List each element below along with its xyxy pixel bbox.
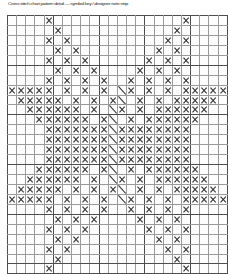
stitch-cell-empty[interactable] — [8, 95, 17, 105]
stitch-cell-empty[interactable] — [154, 224, 163, 234]
stitch-cell-empty[interactable] — [136, 45, 145, 55]
stitch-cell-empty[interactable] — [191, 45, 200, 55]
stitch-cell-cross[interactable] — [26, 95, 35, 105]
stitch-cell-cross[interactable] — [44, 135, 53, 145]
stitch-cell-cross[interactable] — [90, 135, 99, 145]
stitch-cell-cross[interactable] — [172, 155, 181, 165]
stitch-cell-empty[interactable] — [53, 244, 62, 254]
stitch-cell-empty[interactable] — [81, 184, 90, 194]
stitch-cell-cross[interactable] — [163, 204, 172, 214]
stitch-cell-cross[interactable] — [163, 194, 172, 204]
stitch-cell-empty[interactable] — [117, 214, 126, 224]
stitch-cell-empty[interactable] — [108, 244, 117, 254]
stitch-cell-cross[interactable] — [136, 214, 145, 224]
stitch-cell-empty[interactable] — [81, 95, 90, 105]
stitch-cell-empty[interactable] — [35, 244, 44, 254]
stitch-cell-empty[interactable] — [26, 125, 35, 135]
stitch-cell-empty[interactable] — [218, 145, 227, 155]
stitch-cell-empty[interactable] — [35, 55, 44, 65]
stitch-cell-empty[interactable] — [117, 55, 126, 65]
stitch-cell-cross[interactable] — [172, 165, 181, 175]
stitch-cell-cross[interactable] — [99, 115, 108, 125]
stitch-cell-backstitch[interactable] — [117, 85, 126, 95]
stitch-cell-cross[interactable] — [163, 224, 172, 234]
stitch-cell-empty[interactable] — [145, 244, 154, 254]
stitch-cell-cross[interactable] — [8, 194, 17, 204]
stitch-cell-empty[interactable] — [117, 224, 126, 234]
stitch-cell-cross[interactable] — [72, 135, 81, 145]
stitch-cell-cross[interactable] — [26, 184, 35, 194]
stitch-cell-empty[interactable] — [154, 254, 163, 264]
stitch-cell-empty[interactable] — [209, 135, 218, 145]
stitch-cell-empty[interactable] — [35, 65, 44, 75]
stitch-cell-cross[interactable] — [181, 204, 190, 214]
stitch-cell-empty[interactable] — [209, 264, 218, 274]
stitch-cell-empty[interactable] — [209, 145, 218, 155]
stitch-cell-cross[interactable] — [154, 175, 163, 185]
stitch-cell-cross[interactable] — [90, 155, 99, 165]
stitch-cell-empty[interactable] — [117, 65, 126, 75]
stitch-cell-cross[interactable] — [62, 175, 71, 185]
stitch-cell-empty[interactable] — [26, 264, 35, 274]
stitch-cell-cross[interactable] — [99, 125, 108, 135]
stitch-cell-cross[interactable] — [90, 95, 99, 105]
stitch-cell-cross[interactable] — [44, 224, 53, 234]
stitch-cell-empty[interactable] — [90, 45, 99, 55]
stitch-cell-empty[interactable] — [154, 35, 163, 45]
stitch-cell-cross[interactable] — [72, 65, 81, 75]
stitch-cell-empty[interactable] — [8, 214, 17, 224]
stitch-cell-empty[interactable] — [172, 264, 181, 274]
stitch-cell-cross[interactable] — [181, 16, 190, 26]
stitch-cell-empty[interactable] — [90, 224, 99, 234]
stitch-cell-empty[interactable] — [218, 175, 227, 185]
stitch-cell-cross[interactable] — [44, 55, 53, 65]
stitch-cell-cross[interactable] — [200, 175, 209, 185]
stitch-cell-empty[interactable] — [35, 204, 44, 214]
stitch-cell-empty[interactable] — [72, 85, 81, 95]
stitch-cell-empty[interactable] — [154, 16, 163, 26]
stitch-cell-empty[interactable] — [127, 175, 136, 185]
stitch-cell-cross[interactable] — [53, 155, 62, 165]
stitch-cell-empty[interactable] — [99, 45, 108, 55]
stitch-cell-empty[interactable] — [145, 65, 154, 75]
stitch-cell-cross[interactable] — [72, 165, 81, 175]
stitch-cell-cross[interactable] — [72, 175, 81, 185]
stitch-cell-cross[interactable] — [127, 115, 136, 125]
stitch-cell-cross[interactable] — [72, 214, 81, 224]
stitch-cell-cross[interactable] — [53, 45, 62, 55]
stitch-cell-empty[interactable] — [145, 45, 154, 55]
stitch-cell-cross[interactable] — [145, 194, 154, 204]
stitch-cell-cross[interactable] — [127, 194, 136, 204]
stitch-cell-empty[interactable] — [136, 115, 145, 125]
stitch-cell-empty[interactable] — [8, 145, 17, 155]
stitch-cell-cross[interactable] — [53, 175, 62, 185]
stitch-cell-cross[interactable] — [172, 95, 181, 105]
stitch-cell-cross[interactable] — [81, 75, 90, 85]
stitch-cell-cross[interactable] — [44, 155, 53, 165]
stitch-cell-empty[interactable] — [26, 75, 35, 85]
stitch-cell-empty[interactable] — [99, 35, 108, 45]
stitch-cell-empty[interactable] — [181, 234, 190, 244]
stitch-cell-empty[interactable] — [200, 165, 209, 175]
stitch-cell-cross[interactable] — [53, 214, 62, 224]
stitch-cell-cross[interactable] — [90, 105, 99, 115]
stitch-cell-empty[interactable] — [53, 204, 62, 214]
stitch-cell-empty[interactable] — [44, 234, 53, 244]
stitch-cell-cross[interactable] — [154, 155, 163, 165]
stitch-cell-backstitch[interactable] — [108, 165, 117, 175]
stitch-cell-empty[interactable] — [26, 35, 35, 45]
stitch-cell-cross[interactable] — [90, 65, 99, 75]
stitch-cell-empty[interactable] — [154, 75, 163, 85]
stitch-cell-cross[interactable] — [181, 55, 190, 65]
stitch-cell-empty[interactable] — [127, 25, 136, 35]
stitch-cell-empty[interactable] — [26, 45, 35, 55]
stitch-cell-empty[interactable] — [99, 16, 108, 26]
stitch-cell-empty[interactable] — [209, 204, 218, 214]
stitch-cell-empty[interactable] — [17, 234, 26, 244]
stitch-cell-cross[interactable] — [172, 125, 181, 135]
stitch-cell-cross[interactable] — [163, 85, 172, 95]
stitch-cell-empty[interactable] — [209, 254, 218, 264]
stitch-cell-empty[interactable] — [108, 224, 117, 234]
stitch-cell-cross[interactable] — [181, 194, 190, 204]
stitch-cell-empty[interactable] — [53, 16, 62, 26]
